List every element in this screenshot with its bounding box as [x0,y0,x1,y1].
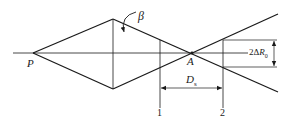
label-2dr0-prefix: 2Δ [249,47,259,57]
ray-p-top [33,19,113,53]
geometry-figure [0,0,289,120]
point-a-dot [191,52,194,55]
label-2dr0-sub: 0 [265,53,268,59]
label-beta: β [138,10,144,22]
label-plane-1: 1 [157,108,162,118]
label-2dr0: 2ΔR0 [248,48,269,59]
label-a: A [187,56,194,67]
label-ds-sub: s [194,80,197,88]
label-ds-main: D [186,73,194,85]
label-plane-2: 2 [220,108,225,118]
ray-p-bottom [33,53,113,89]
label-p: P [27,58,34,69]
label-ds: Ds [186,74,197,88]
diagram-canvas: P A β Ds 2ΔR0 1 2 [0,0,289,120]
